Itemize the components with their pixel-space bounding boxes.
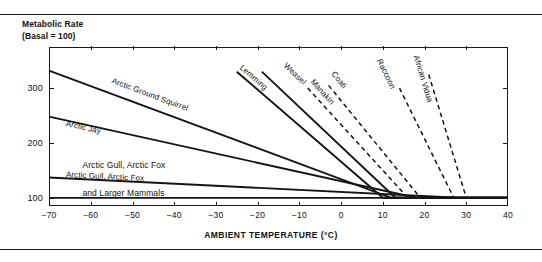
x-tick-mark (299, 202, 300, 206)
y-tick-mark-right (503, 143, 508, 144)
x-tick-label: −40 (167, 210, 182, 220)
x-tick-mark (133, 202, 134, 206)
x-tick-label: −60 (83, 210, 98, 220)
x-tick-mark-top (174, 46, 175, 50)
x-tick-mark (341, 202, 342, 206)
figure-bottom-rule (0, 249, 542, 250)
x-tick-mark-top (258, 46, 259, 50)
y-tick-label: 200 (13, 138, 43, 148)
x-tick-mark (466, 202, 467, 206)
x-tick-mark-top (133, 46, 134, 50)
y-tick-mark-right (503, 198, 508, 199)
x-tick-mark-top (216, 46, 217, 50)
x-tick-label: −50 (125, 210, 140, 220)
x-tick-label: 40 (503, 210, 513, 220)
y-tick-label: 300 (13, 83, 43, 93)
x-tick-mark (174, 202, 175, 206)
x-tick-label: −20 (250, 210, 265, 220)
x-tick-mark-top (425, 46, 426, 50)
x-tick-mark-top (91, 46, 92, 50)
y-axis-title: Metabolic Rate (Basal = 100) (22, 19, 83, 42)
x-tick-label: −70 (41, 210, 56, 220)
x-tick-mark-top (299, 46, 300, 50)
figure-top-rule (0, 14, 542, 15)
plot-area (49, 47, 508, 206)
x-tick-mark (216, 202, 217, 206)
x-tick-mark-top (466, 46, 467, 50)
y-tick-label: 100 (13, 193, 43, 203)
curve-layer (49, 47, 508, 206)
x-tick-label: −30 (208, 210, 223, 220)
x-tick-mark (383, 202, 384, 206)
x-axis-title: AMBIENT TEMPERATURE (°C) (0, 230, 542, 240)
figure-container: Metabolic Rate (Basal = 100) −70−60−50−4… (0, 0, 542, 262)
x-tick-mark-top (383, 46, 384, 50)
x-tick-label: 30 (461, 210, 471, 220)
x-tick-mark (91, 202, 92, 206)
x-tick-label: 0 (339, 210, 344, 220)
y-tick-mark-right (503, 88, 508, 89)
x-tick-mark (425, 202, 426, 206)
x-tick-label: 10 (378, 210, 388, 220)
y-tick-mark (49, 198, 54, 199)
x-tick-label: −10 (292, 210, 307, 220)
x-tick-mark (258, 202, 259, 206)
y-tick-mark (49, 143, 54, 144)
curve-label-and-larger-mammals: and Larger Mammals (82, 188, 164, 198)
y-tick-mark (49, 88, 54, 89)
curve-label-arctic-gull-arctic-fox: Arctic Gull, Arctic Fox (82, 160, 165, 170)
x-tick-mark-top (341, 46, 342, 50)
x-tick-label: 20 (420, 210, 430, 220)
